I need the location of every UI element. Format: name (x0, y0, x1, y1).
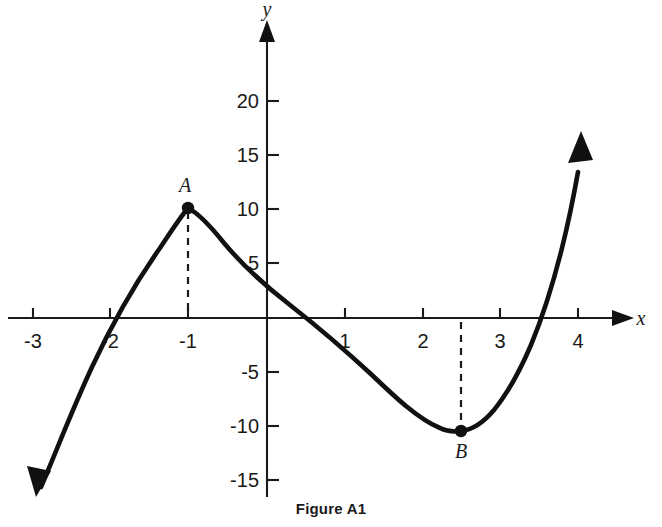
curve-arrowhead-upper-right (568, 131, 593, 163)
x-tick-label-3: 3 (494, 330, 505, 352)
x-tick-label--3: -3 (24, 330, 42, 352)
y-axis-label: y (261, 0, 272, 21)
y-tick-label--10: -10 (230, 415, 259, 437)
point-b-label: B (455, 440, 467, 462)
x-tick-label-2: 2 (417, 330, 428, 352)
point-b-group: B (455, 322, 467, 462)
function-graph: x -3 -2 -1 1 2 3 4 y (0, 0, 662, 527)
y-tick-label--5: -5 (241, 361, 259, 383)
curve-group (27, 131, 593, 497)
y-tick-label-10: 10 (237, 198, 259, 220)
figure-caption: Figure A1 (0, 500, 662, 517)
point-b-marker (455, 425, 467, 437)
x-axis-label: x (636, 307, 646, 329)
point-a-label: A (177, 174, 192, 196)
x-axis-arrowhead (612, 310, 634, 326)
point-a-marker (182, 202, 194, 214)
point-a-group: A (177, 174, 194, 314)
y-tick-label--15: -15 (230, 469, 259, 491)
y-tick-label-20: 20 (237, 90, 259, 112)
curve-arrowhead-lower-left (27, 466, 51, 497)
y-axis-group: y 20 15 10 5 -5 -10 -15 (230, 0, 279, 497)
y-tick-label-15: 15 (237, 144, 259, 166)
x-tick-label-4: 4 (572, 330, 583, 352)
figure-container: x -3 -2 -1 1 2 3 4 y (0, 0, 662, 527)
x-tick-label--1: -1 (179, 330, 197, 352)
y-axis-arrowhead (259, 20, 275, 42)
